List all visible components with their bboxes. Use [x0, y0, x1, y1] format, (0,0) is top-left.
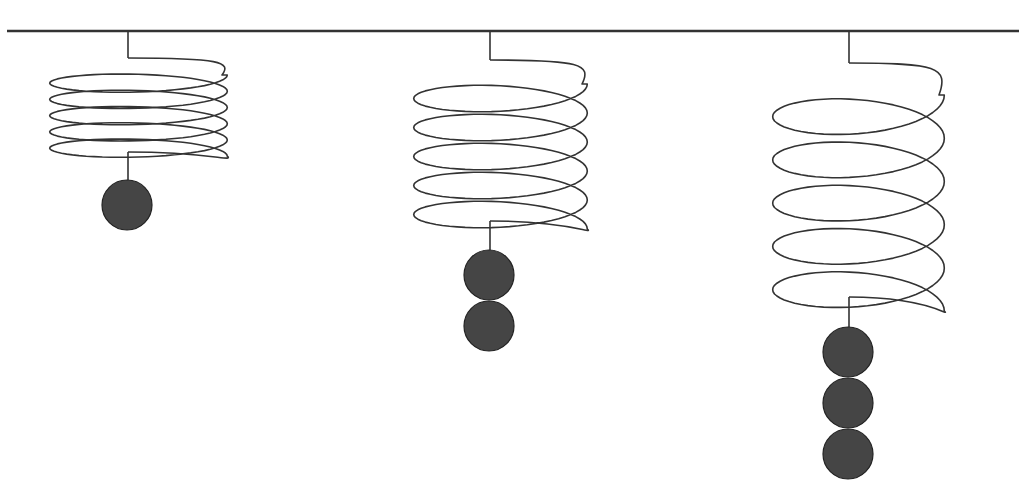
spring-extension-diagram: [0, 0, 1031, 487]
weight-ball: [464, 250, 514, 300]
weight-ball: [464, 301, 514, 351]
weight-ball: [823, 429, 873, 479]
spring-2: [414, 31, 589, 351]
spring-coil: [773, 63, 946, 312]
weight-ball: [823, 378, 873, 428]
weight-ball: [823, 327, 873, 377]
spring-coil: [50, 58, 229, 158]
spring-coil: [414, 60, 589, 230]
weight-ball: [102, 180, 152, 230]
spring-1: [50, 31, 229, 230]
spring-3: [773, 31, 946, 479]
springs-group: [50, 31, 946, 479]
